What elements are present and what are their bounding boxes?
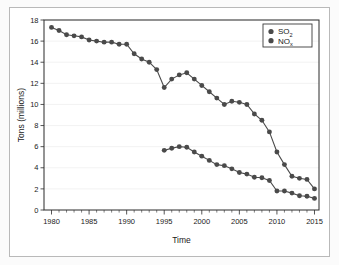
y-tick-label: 2 — [34, 185, 38, 194]
data-point — [139, 57, 144, 62]
legend-label-subscript: 2 — [290, 32, 293, 38]
x-tick-label: 2000 — [193, 217, 210, 226]
data-point — [229, 99, 234, 104]
x-tick-label: 1980 — [43, 217, 60, 226]
data-point — [214, 96, 219, 101]
y-axis-title: Tons (millions) — [16, 88, 26, 142]
x-tick-label: 1990 — [118, 217, 135, 226]
x-tick-label: 1985 — [81, 217, 98, 226]
legend-marker — [268, 29, 273, 34]
data-point — [177, 144, 182, 149]
data-point — [297, 176, 302, 181]
data-point — [305, 177, 310, 182]
data-point — [290, 191, 295, 196]
data-point — [147, 60, 152, 65]
legend-marker — [268, 38, 273, 43]
data-point — [132, 51, 137, 56]
data-point — [267, 178, 272, 183]
data-point — [252, 111, 257, 116]
data-point — [207, 89, 212, 94]
y-tick-label: 10 — [30, 100, 38, 109]
x-tick-label: 2010 — [269, 217, 286, 226]
legend: SO2NOx — [263, 24, 312, 47]
chart-figure: 0246810121416181980198519901995200020052… — [0, 0, 339, 265]
data-point — [192, 77, 197, 82]
line-chart: 0246810121416181980198519901995200020052… — [0, 0, 339, 265]
data-point — [267, 129, 272, 134]
data-point — [49, 25, 54, 30]
x-tick-label: 2005 — [231, 217, 248, 226]
data-point — [79, 34, 84, 39]
data-point — [117, 42, 122, 47]
y-tick-label: 12 — [30, 79, 38, 88]
data-point — [282, 162, 287, 167]
data-point — [162, 85, 167, 90]
data-point — [222, 163, 227, 168]
data-point — [72, 33, 77, 38]
data-point — [207, 158, 212, 163]
data-point — [244, 102, 249, 107]
series-SO2 — [49, 25, 317, 191]
data-point — [184, 70, 189, 75]
data-point — [192, 149, 197, 154]
data-point — [290, 174, 295, 179]
data-point — [64, 32, 69, 37]
data-point — [169, 146, 174, 151]
data-point — [177, 72, 182, 77]
data-point — [124, 42, 129, 47]
data-point — [222, 102, 227, 107]
plot-frame — [44, 20, 319, 210]
data-point — [169, 77, 174, 82]
x-tick-label: 1995 — [156, 217, 173, 226]
data-point — [87, 38, 92, 43]
legend-label-subscript: x — [290, 41, 293, 47]
y-tick-label: 14 — [30, 58, 38, 67]
data-point — [259, 118, 264, 123]
data-point — [154, 67, 159, 72]
data-point — [184, 145, 189, 150]
data-point — [229, 166, 234, 171]
data-point — [57, 28, 62, 33]
data-point — [162, 148, 167, 153]
data-point — [305, 194, 310, 199]
data-point — [244, 172, 249, 177]
y-axis: 024681012141618 — [30, 16, 44, 215]
data-point — [214, 162, 219, 167]
data-point — [282, 189, 287, 194]
data-point — [109, 40, 114, 45]
y-tick-label: 0 — [34, 206, 38, 215]
y-tick-label: 6 — [34, 142, 38, 151]
data-point — [199, 83, 204, 88]
series-NOx — [162, 144, 317, 201]
x-tick-label: 2015 — [306, 217, 323, 226]
x-axis: 19801985199019952000200520102015 — [43, 210, 323, 226]
data-point — [199, 154, 204, 159]
data-point — [297, 193, 302, 198]
y-tick-label: 4 — [34, 163, 38, 172]
data-point — [237, 100, 242, 105]
y-tick-label: 8 — [34, 121, 38, 130]
y-tick-label: 16 — [30, 37, 38, 46]
data-point — [252, 175, 257, 180]
data-point — [312, 196, 317, 201]
x-axis-title: Time — [172, 235, 191, 245]
data-point — [94, 39, 99, 44]
y-tick-label: 18 — [30, 16, 38, 25]
series-line-SO2 — [52, 27, 315, 189]
data-point — [237, 170, 242, 175]
data-point — [274, 149, 279, 154]
data-point — [259, 175, 264, 180]
data-point — [312, 186, 317, 191]
data-point — [274, 189, 279, 194]
data-point — [102, 40, 107, 45]
